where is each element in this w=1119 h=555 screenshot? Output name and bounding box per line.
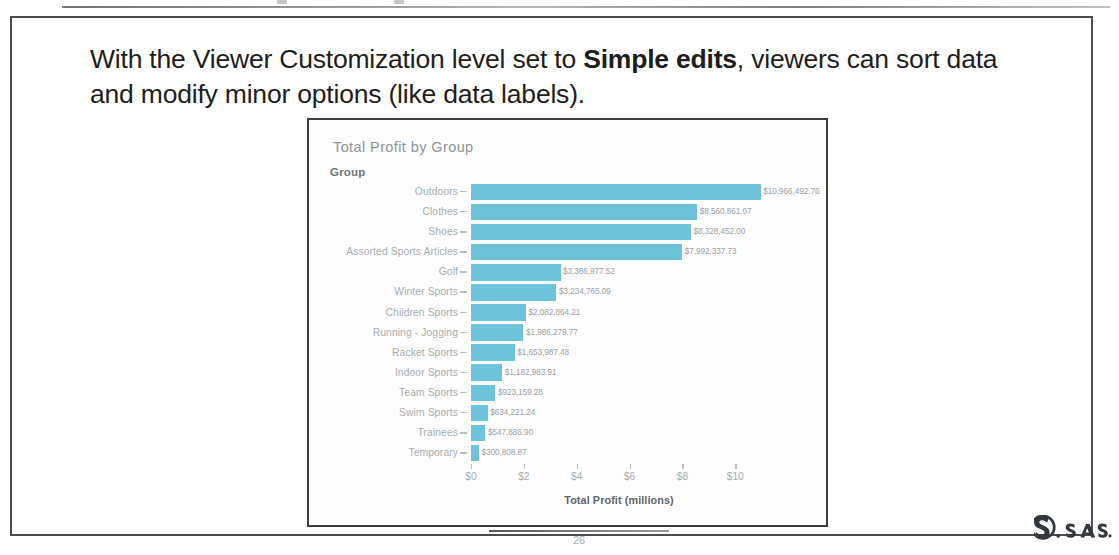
chart-category-row: Temporary: [329, 443, 467, 463]
chart-axis-tick: [577, 464, 578, 469]
chart-bar[interactable]: [471, 244, 682, 261]
chart-category-label: Running - Jogging: [373, 323, 458, 343]
chart-bar-row: $547,886.90: [471, 423, 767, 443]
chart-bar[interactable]: [471, 425, 485, 442]
chart-category-row: Running - Jogging: [329, 323, 467, 343]
chart-category-tick: [460, 251, 467, 252]
chart-bar-row: $2,082,864.21: [471, 303, 767, 323]
chart-axis-tick: [471, 464, 472, 469]
chart-bar[interactable]: [471, 364, 502, 381]
chart-bar[interactable]: [471, 224, 691, 241]
chart-category-tick: [460, 352, 467, 353]
chart-category-label: Racket Sports: [392, 343, 458, 363]
chart-category-tick: [460, 312, 467, 313]
chart-axis-tick: [630, 464, 631, 469]
chart-bar[interactable]: [471, 284, 556, 301]
chart-category-row: Clothes: [329, 202, 467, 222]
chart-bar-row: $3,386,977.52: [471, 262, 767, 282]
chart-plot-area: OutdoorsClothesShoesAssorted Sports Arti…: [329, 182, 816, 515]
chart-category-label: Outdoors: [415, 182, 458, 202]
chart-category-axis: OutdoorsClothesShoesAssorted Sports Arti…: [329, 182, 467, 464]
chart-category-row: Team Sports: [329, 383, 467, 403]
chart-category-label: Team Sports: [399, 383, 458, 403]
chart-title: Total Profit by Group: [333, 139, 474, 155]
footer-divider: [489, 530, 669, 532]
chart-category-label: Shoes: [428, 222, 458, 242]
chart-category-label: Swim Sports: [399, 403, 458, 423]
chart-data-label: $923,159.28: [498, 383, 543, 403]
chart-category-row: Racket Sports: [329, 343, 467, 363]
chart-category-label: Children Sports: [386, 303, 458, 323]
sas-logo: [1034, 515, 1112, 541]
scan-artifact-mark: [394, 0, 404, 4]
chart-bar-row: $300,808.87: [471, 443, 767, 463]
chart-bar[interactable]: [471, 264, 561, 281]
chart-data-label: $634,221.24: [490, 403, 535, 423]
chart-category-tick: [460, 191, 467, 192]
chart-category-row: Winter Sports: [329, 282, 467, 302]
chart-data-label: $10,966,492.76: [763, 182, 819, 202]
chart-category-tick: [460, 271, 467, 272]
chart-data-label: $3,234,765.09: [559, 282, 611, 302]
chart-category-tick: [460, 392, 467, 393]
chart-bar-row: $923,159.28: [471, 383, 767, 403]
chart-bar-row: $7,992,337.73: [471, 242, 767, 262]
chart-axis-tick: [735, 464, 736, 469]
chart-category-label: Clothes: [422, 202, 458, 222]
chart-axis-tick-label: $6: [624, 471, 635, 482]
chart-bar[interactable]: [471, 344, 515, 361]
chart-data-label: $1,653,987.48: [517, 343, 569, 363]
chart-category-tick: [460, 291, 467, 292]
chart-category-tick: [460, 412, 467, 413]
chart-axis-tick: [682, 464, 683, 469]
chart-category-row: Indoor Sports: [329, 363, 467, 383]
chart-bars-container: $10,966,492.76$8,560,861.07$8,328,452.00…: [471, 182, 767, 464]
chart-axis-title: Total Profit (millions): [471, 494, 767, 506]
chart-bar-row: $1,653,987.48: [471, 343, 767, 363]
chart-category-row: Shoes: [329, 222, 467, 242]
chart-bar-row: $8,560,861.07: [471, 202, 767, 222]
slide-frame: With the Viewer Customization level set …: [10, 16, 1093, 536]
chart-bar-row: $1,986,279.77: [471, 323, 767, 343]
chart-bar[interactable]: [471, 385, 495, 402]
chart-bar-row: $3,234,765.09: [471, 282, 767, 302]
chart-category-tick: [460, 452, 467, 453]
chart-data-label: $3,386,977.52: [563, 262, 615, 282]
chart-bar-row: $634,221.24: [471, 403, 767, 423]
chart-category-label: Winter Sports: [394, 282, 458, 302]
chart-category-row: Children Sports: [329, 303, 467, 323]
chart-bar[interactable]: [471, 304, 526, 321]
chart-bar-row: $8,328,452.00: [471, 222, 767, 242]
chart-bar[interactable]: [471, 445, 479, 462]
chart-category-label: Trainees: [418, 423, 458, 443]
chart-axis-tick-label: $0: [465, 471, 476, 482]
chart-bar[interactable]: [471, 204, 697, 221]
chart-bar-row: $1,182,983.91: [471, 363, 767, 383]
chart-axis-tick-label: $10: [727, 471, 744, 482]
headline-emphasis: Simple edits: [583, 44, 737, 74]
chart-data-label: $547,886.90: [488, 423, 533, 443]
chart-category-row: Trainees: [329, 423, 467, 443]
chart-data-label: $8,560,861.07: [700, 202, 752, 222]
chart-axis-tick-label: $8: [677, 471, 688, 482]
chart-bar[interactable]: [471, 324, 523, 341]
chart-data-label: $2,082,864.21: [529, 303, 581, 323]
scan-artifact-mark: [277, 0, 287, 4]
chart-category-label: Temporary: [408, 443, 458, 463]
chart-category-row: Outdoors: [329, 182, 467, 202]
headline-text-before: With the Viewer Customization level set …: [90, 44, 583, 74]
chart-legend-title: Group: [330, 166, 366, 178]
chart-data-label: $7,992,337.73: [685, 242, 737, 262]
page-number: 26: [489, 534, 669, 546]
chart-axis-tick-label: $2: [518, 471, 529, 482]
chart-category-label: Golf: [439, 262, 458, 282]
page-title: With the Viewer Customization level set …: [90, 42, 1020, 112]
chart-category-label: Assorted Sports Articles: [346, 242, 458, 262]
chart-bar[interactable]: [471, 184, 761, 201]
chart-category-row: Swim Sports: [329, 403, 467, 423]
scan-top-rule: [62, 6, 1110, 8]
chart-axis-tick-label: $4: [571, 471, 582, 482]
chart-data-label: $1,986,279.77: [526, 323, 578, 343]
chart-bar[interactable]: [471, 405, 488, 422]
chart-category-tick: [460, 211, 467, 212]
